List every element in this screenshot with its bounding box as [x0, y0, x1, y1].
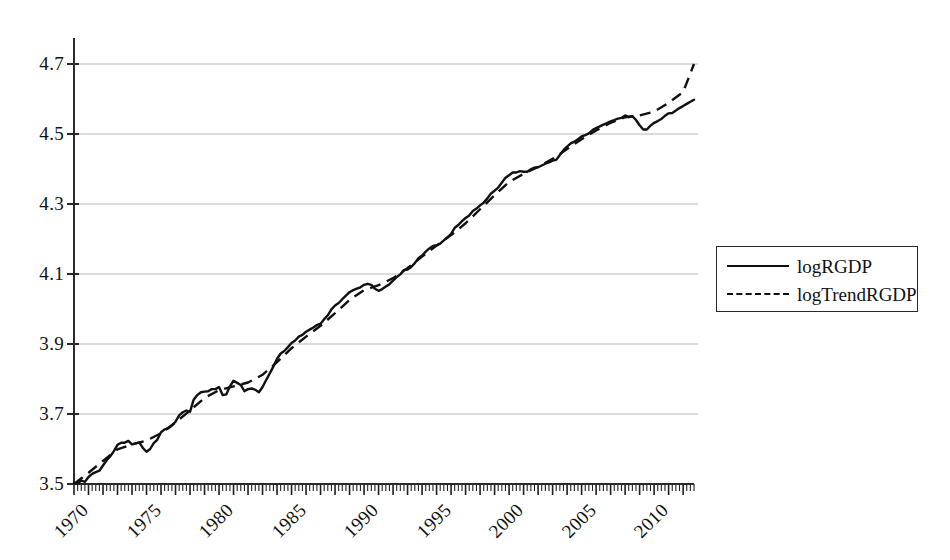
- y-axis-tick-label: 4.7: [8, 54, 64, 73]
- y-axis-tick-label: 3.5: [8, 474, 64, 493]
- chart-container: 4.74.54.34.13.93.73.5 197019751980198519…: [0, 0, 950, 560]
- y-axis-tick-label: 4.1: [8, 264, 64, 283]
- y-axis-tick-label: 4.3: [8, 194, 64, 213]
- gridlines: [74, 64, 698, 414]
- legend-swatch-solid-line: [727, 259, 789, 273]
- y-axis-tick-label: 3.9: [8, 334, 64, 353]
- y-axis-tick-labels: 4.74.54.34.13.93.73.5: [0, 0, 64, 560]
- chart-legend: logRGDP logTrendRGDP: [716, 246, 918, 312]
- y-axis-tick-label: 3.7: [8, 404, 64, 423]
- legend-label-logrgdp: logRGDP: [797, 257, 872, 276]
- x-axis-minor-ticks: [74, 484, 694, 495]
- series-line-logrgdp: [74, 100, 694, 484]
- legend-entry-logtrendrgdp: logTrendRGDP: [717, 280, 917, 308]
- legend-swatch-dashed-line: [727, 287, 789, 301]
- y-axis-tick-label: 4.5: [8, 124, 64, 143]
- legend-entry-logrgdp: logRGDP: [717, 252, 917, 280]
- legend-label-logtrendrgdp: logTrendRGDP: [797, 285, 917, 304]
